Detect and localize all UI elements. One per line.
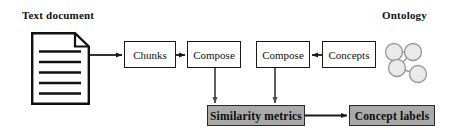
node-concept-labels[interactable]: Concept labels <box>349 105 435 126</box>
ontology-graph-icon <box>382 40 437 88</box>
node-concepts[interactable]: Concepts <box>322 41 376 68</box>
text-document-label: Text document <box>22 9 94 21</box>
diagram-canvas: Text document Ontology <box>0 0 449 133</box>
node-compose-left[interactable]: Compose <box>187 41 241 68</box>
node-similarity-metrics[interactable]: Similarity metrics <box>207 105 305 126</box>
ontology-label: Ontology <box>382 9 427 21</box>
node-chunks[interactable]: Chunks <box>124 41 176 68</box>
document-page-icon <box>31 32 90 105</box>
node-compose-right[interactable]: Compose <box>256 41 310 68</box>
